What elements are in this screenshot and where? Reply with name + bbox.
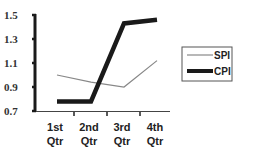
series-line-cpi bbox=[57, 20, 157, 102]
line-chart: 1.51.31.10.90.7 1stQtr2ndQtr3rdQtr4thQtr… bbox=[0, 0, 254, 157]
y-tick-label: 1.5 bbox=[4, 9, 18, 21]
x-tick-label: 4th bbox=[147, 121, 164, 133]
series-lines bbox=[57, 20, 157, 102]
y-tick-label: 1.3 bbox=[4, 33, 18, 45]
x-tick-labels: 1stQtr2ndQtr3rdQtr4thQtr bbox=[47, 112, 164, 147]
y-tick-label: 1.1 bbox=[4, 57, 18, 69]
legend: SPI CPI bbox=[182, 47, 232, 81]
y-tick-labels: 1.51.31.10.90.7 bbox=[4, 9, 36, 117]
x-tick-label: Qtr bbox=[47, 135, 64, 147]
x-tick-label: Qtr bbox=[147, 135, 164, 147]
y-tick-label: 0.9 bbox=[4, 81, 18, 93]
x-tick-label: 2nd bbox=[79, 121, 99, 133]
x-tick-label: Qtr bbox=[114, 135, 131, 147]
legend-cpi-label: CPI bbox=[214, 66, 231, 77]
x-tick-label: 1st bbox=[47, 121, 63, 133]
x-tick-label: 3rd bbox=[113, 121, 130, 133]
legend-spi-label: SPI bbox=[214, 50, 230, 61]
x-tick-label: Qtr bbox=[81, 135, 98, 147]
y-tick-label: 0.7 bbox=[4, 105, 18, 117]
